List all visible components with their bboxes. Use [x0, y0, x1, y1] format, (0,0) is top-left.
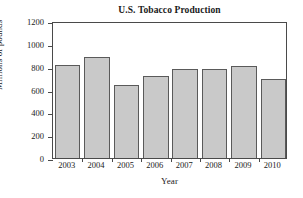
x-axis-title: Year — [52, 176, 287, 186]
plot-area — [52, 22, 287, 159]
x-tick — [141, 158, 142, 162]
y-tick-label: 400 — [0, 109, 44, 118]
x-tick-label-2004: 2004 — [88, 161, 105, 170]
y-tick-label: 600 — [0, 86, 44, 95]
y-tick-label: 200 — [0, 132, 44, 141]
y-tick — [48, 160, 53, 161]
y-tick-label: 800 — [0, 63, 44, 72]
x-tick-label-2006: 2006 — [146, 161, 163, 170]
x-tick — [229, 158, 230, 162]
x-tick — [259, 158, 260, 162]
x-tick-label-2009: 2009 — [234, 161, 251, 170]
bar-2005 — [114, 85, 140, 158]
x-tick-label-2010: 2010 — [264, 161, 281, 170]
x-tick-label-2003: 2003 — [58, 161, 75, 170]
bars-layer — [53, 23, 286, 158]
bar-2008 — [202, 69, 228, 158]
tobacco-production-bar-chart: U.S. Tobacco Production 0200400600800100… — [0, 0, 303, 198]
x-tick — [112, 158, 113, 162]
bar-2010 — [261, 79, 287, 158]
y-tick-label: 1000 — [0, 41, 44, 50]
bar-2007 — [172, 69, 198, 158]
x-tick — [171, 158, 172, 162]
y-tick-label: 1200 — [0, 18, 44, 27]
x-tick — [82, 158, 83, 162]
y-axis-title: Millions of pounds — [0, 20, 4, 90]
bar-2004 — [84, 57, 110, 158]
bar-2009 — [231, 66, 257, 158]
bar-2006 — [143, 76, 169, 158]
y-tick-label: 0 — [0, 155, 44, 164]
x-tick-label-2005: 2005 — [117, 161, 134, 170]
x-tick-label-2007: 2007 — [176, 161, 193, 170]
x-tick — [200, 158, 201, 162]
x-tick-label-2008: 2008 — [205, 161, 222, 170]
chart-title: U.S. Tobacco Production — [52, 5, 287, 16]
bar-2003 — [55, 65, 81, 158]
